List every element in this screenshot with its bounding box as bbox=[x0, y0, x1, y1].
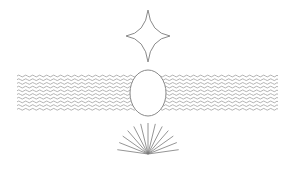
diagram-svg bbox=[0, 0, 294, 174]
diagram-canvas bbox=[0, 0, 294, 174]
ellipse-shape bbox=[130, 70, 166, 116]
four-point-star-shape bbox=[126, 10, 170, 62]
ellipse-outline bbox=[130, 70, 166, 116]
ray-fan-shape bbox=[117, 123, 178, 154]
star-outline bbox=[126, 10, 170, 62]
